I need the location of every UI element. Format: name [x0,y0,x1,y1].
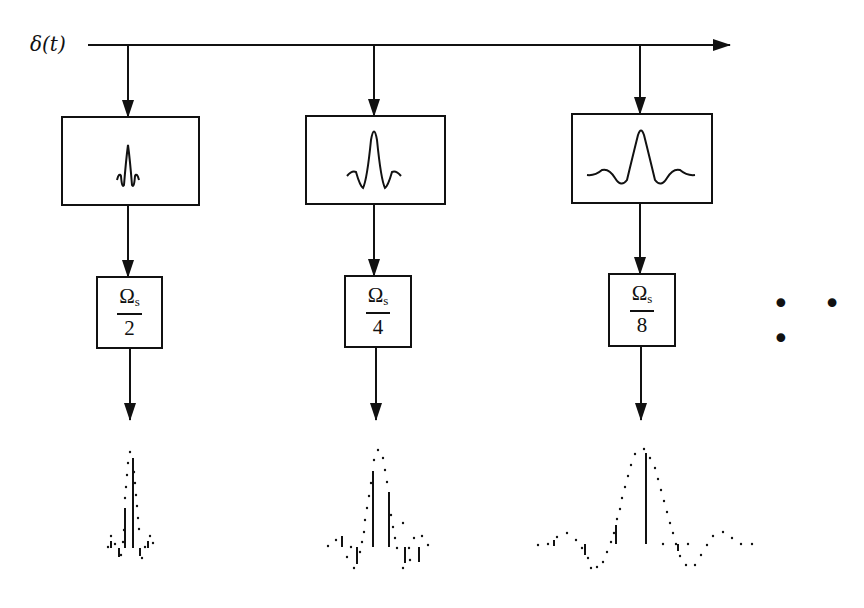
filter-box-2 [306,116,445,204]
rate-numerator: Ω [119,284,135,308]
rate-subscript: s [135,294,140,309]
sampling-rate-3: Ωs 8 [609,282,675,338]
narrow-sinc-icon [117,145,139,186]
input-signal-label: δ(t) [30,32,66,56]
rate-numerator: Ω [368,283,384,307]
continuation-ellipsis: • • • [772,286,864,356]
medium-sinc-icon [347,132,401,189]
rate-denominator: 8 [637,312,648,338]
rate-denominator: 4 [373,314,384,340]
filter-box-3 [572,114,712,203]
rate-denominator: 2 [124,315,135,341]
rate-numerator: Ω [632,281,648,305]
wide-sinc-icon [587,131,695,184]
sampling-rate-1: Ωs 2 [97,285,162,341]
rate-subscript: s [383,293,388,308]
sampling-rate-2: Ωs 4 [345,284,411,340]
sampled-output-1 [107,451,154,559]
sampled-output-3 [537,448,753,569]
rate-subscript: s [647,291,652,306]
sampled-output-2 [327,449,429,569]
